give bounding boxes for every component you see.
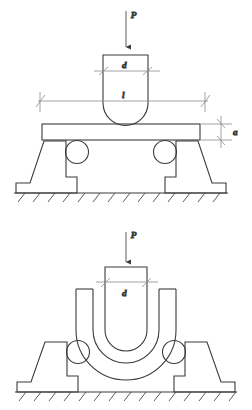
- right-roller: [154, 141, 177, 164]
- sheet-blank: [42, 124, 200, 140]
- punch-width-label-top: d: [122, 60, 127, 70]
- stage-before-bending: P d l: [14, 10, 238, 202]
- left-support-bottom: [17, 342, 78, 392]
- dimension-plate-thickness: [201, 116, 232, 148]
- figure-canvas: P d l: [0, 0, 252, 410]
- punch-bottom: [105, 267, 147, 351]
- stage-after-bending: P d: [15, 230, 237, 401]
- bent-sheet: [76, 289, 176, 380]
- engineering-figure: P d l: [0, 0, 252, 410]
- ground-bottom: [15, 392, 237, 401]
- left-support: [16, 141, 77, 193]
- right-support-bottom: [174, 342, 235, 392]
- right-support: [165, 141, 226, 193]
- span-label: l: [122, 90, 125, 100]
- punch-width-label-bottom: d: [122, 288, 127, 298]
- force-label-bottom: P: [130, 230, 137, 240]
- ground: [14, 193, 228, 202]
- plate-thickness-label: a: [233, 127, 238, 137]
- left-roller: [66, 141, 89, 164]
- force-label-top: P: [130, 10, 137, 20]
- dimension-punch-width: [94, 67, 160, 75]
